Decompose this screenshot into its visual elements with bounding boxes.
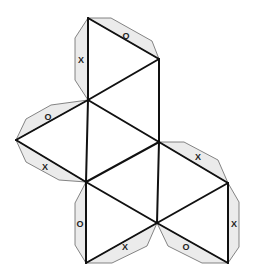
tab-label: X [42, 162, 48, 172]
edge-ce [86, 100, 88, 182]
edge-ed [86, 142, 159, 182]
fold-edges [16, 18, 228, 263]
tab-label: X [195, 152, 201, 162]
tab-label: X [231, 219, 237, 229]
edge-bc [88, 59, 159, 100]
octahedron-net-diagram: XOOXXXOXO [0, 0, 255, 278]
tab-label: O [44, 112, 51, 122]
tab-label: O [182, 242, 189, 252]
glue-tabs [16, 18, 239, 263]
tab-label: X [122, 242, 128, 252]
edge-eg [86, 182, 157, 223]
tab-label: X [78, 55, 84, 65]
edge-fg [157, 183, 228, 223]
edge-cd [88, 100, 159, 142]
net-canvas: XOOXXXOXO [0, 0, 255, 278]
edge-dg [157, 142, 159, 223]
tab-labels: XOOXXXOXO [42, 31, 237, 252]
tab-label: O [76, 219, 83, 229]
tab-label: O [122, 31, 129, 41]
